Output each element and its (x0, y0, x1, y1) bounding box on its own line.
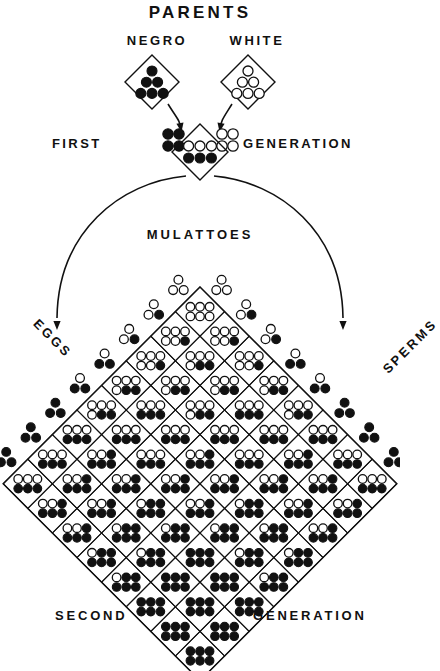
punnett-cell-dots (235, 352, 244, 361)
sperm-gamete-dots (212, 286, 221, 295)
punnett-cell-dots (147, 450, 156, 459)
punnett-cell-dots (82, 524, 91, 533)
egg-gamete-dots (70, 384, 79, 393)
punnett-cell-dots (220, 632, 229, 641)
punnett-cell-dots (122, 583, 131, 592)
punnett-cell-dots (260, 573, 269, 582)
punnett-cell-dots (162, 475, 171, 484)
white-dot-icon (228, 141, 238, 151)
punnett-cell-dots (171, 426, 180, 435)
punnett-cell-dots (107, 411, 116, 420)
punnett-cell-dots (162, 376, 171, 385)
punnett-cell-dots (88, 499, 97, 508)
punnett-cell-dots (48, 460, 57, 469)
punnett-cell-dots (162, 327, 171, 336)
punnett-cell-dots (309, 534, 318, 543)
punnett-cell-dots (132, 583, 141, 592)
punnett-cell-dots (122, 524, 131, 533)
punnett-cell-dots (171, 376, 180, 385)
punnett-cell-dots (107, 450, 116, 459)
punnett-cell-dots (235, 598, 244, 607)
punnett-cell-dots (112, 475, 121, 484)
punnett-cell-dots (270, 386, 279, 395)
punnett-cell-dots (181, 337, 190, 346)
punnett-cell-dots (205, 401, 214, 410)
punnett-cell-dots (162, 632, 171, 641)
punnett-cell-dots (343, 499, 352, 508)
punnett-cell-dots (107, 401, 116, 410)
punnett-cell-dots (181, 632, 190, 641)
punnett-cell-dots (260, 583, 269, 592)
sperm-gamete-dots (365, 423, 374, 432)
punnett-cell-dots (285, 509, 294, 518)
egg-gamete-dots (179, 286, 188, 295)
punnett-cell-dots (205, 499, 214, 508)
punnett-cell-dots (181, 327, 190, 336)
punnett-cell-dots (156, 411, 165, 420)
punnett-cell-dots (63, 426, 72, 435)
punnett-cell-dots (211, 327, 220, 336)
punnett-cell-dots (156, 558, 165, 567)
egg-gamete-dots (7, 458, 16, 467)
punnett-cell-dots (235, 361, 244, 370)
punnett-cell-dots (260, 534, 269, 543)
punnett-cell-dots (97, 558, 106, 567)
punnett-cell-dots (58, 460, 67, 469)
punnett-cell-dots (33, 475, 42, 484)
punnett-cell-dots (279, 524, 288, 533)
black-dot-icon (163, 129, 173, 139)
punnett-cell-dots (137, 361, 146, 370)
sperm-gamete-dots (310, 384, 319, 393)
punnett-cell-dots (112, 573, 121, 582)
punnett-cell-dots (230, 622, 239, 631)
punnett-cell-dots (211, 435, 220, 444)
punnett-cell-dots (205, 558, 214, 567)
punnett-cell-dots (230, 327, 239, 336)
punnett-cell-dots (171, 475, 180, 484)
sperm-gamete-dots (223, 286, 232, 295)
punnett-cell-dots (220, 475, 229, 484)
black-dot-icon (158, 88, 168, 98)
sperm-gamete-dots (272, 335, 281, 344)
punnett-cell-dots (88, 450, 97, 459)
punnett-cell-dots (220, 435, 229, 444)
punnett-cell-dots (304, 549, 313, 558)
punnett-cell-dots (270, 435, 279, 444)
punnett-cell-dots (186, 558, 195, 567)
punnett-cell-dots (147, 411, 156, 420)
black-dot-icon (195, 153, 205, 163)
punnett-cell-dots (39, 509, 48, 518)
punnett-cell-dots (254, 607, 263, 616)
sperm-gamete-dots (296, 360, 305, 369)
punnett-cell-dots (186, 450, 195, 459)
punnett-cell-dots (147, 352, 156, 361)
punnett-cell-dots (156, 361, 165, 370)
sperm-gamete-dots (384, 458, 393, 467)
punnett-cell-dots (156, 401, 165, 410)
white-dot-icon (254, 88, 264, 98)
white-dot-icon (184, 141, 194, 151)
punnett-cell-dots (137, 499, 146, 508)
punnett-cell-dots (220, 426, 229, 435)
sperm-gamete-dots (395, 458, 400, 467)
punnett-cell-dots (205, 549, 214, 558)
white-dot-icon (232, 88, 242, 98)
punnett-cell-dots (171, 632, 180, 641)
punnett-cell-dots (63, 435, 72, 444)
punnett-cell-dots (171, 583, 180, 592)
punnett-cell-dots (137, 607, 146, 616)
punnett-cell-dots (205, 312, 214, 321)
punnett-cell-dots (122, 426, 131, 435)
punnett-cell-dots (285, 401, 294, 410)
punnett-cell-dots (245, 549, 254, 558)
punnett-cell-dots (132, 435, 141, 444)
punnett-cell-dots (186, 303, 195, 312)
punnett-cell-dots (304, 401, 313, 410)
punnett-cell-dots (122, 386, 131, 395)
egg-gamete-dots (95, 360, 104, 369)
punnett-cell-dots (24, 484, 33, 493)
punnett-cell-dots (147, 401, 156, 410)
punnett-cell-dots (63, 534, 72, 543)
punnett-cell-dots (196, 607, 205, 616)
